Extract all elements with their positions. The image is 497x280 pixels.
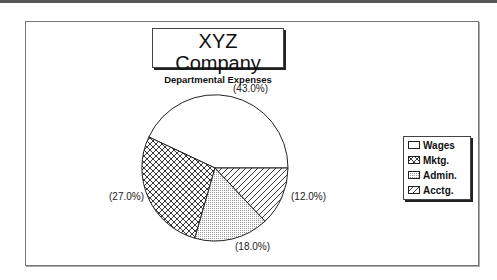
legend-item-wages: Wages [404,138,470,152]
legend-item-mktg: Mktg. [404,153,470,167]
swatch-dots-icon [408,171,420,179]
swatch-blank-icon [408,141,420,149]
legend-item-admin: Admin. [404,168,470,182]
swatch-diagonal-icon [408,186,420,194]
label-acctg: (12.0%) [291,191,326,202]
label-wages: (43.0%) [233,83,268,94]
legend-item-acctg: Acctg. [404,183,470,197]
label-admin: (18.0%) [235,241,270,252]
swatch-crosshatch-icon [408,156,420,164]
legend: Wages Mktg. Admin. Acctg. [403,136,471,200]
label-mktg: (27.0%) [109,191,144,202]
